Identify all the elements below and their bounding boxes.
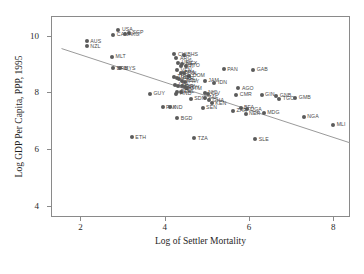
x-axis-tick-mark — [249, 217, 250, 221]
x-axis-tick-label: 4 — [162, 222, 167, 232]
y-axis-title: Log GDP Per Capita, PPP, 1995 — [12, 16, 26, 217]
plot-frame — [51, 16, 350, 217]
x-axis-tick-mark — [165, 217, 166, 221]
x-axis-tick-label: 6 — [247, 222, 252, 232]
x-axis-tick-mark — [80, 217, 81, 221]
y-axis-tick-label: 10 — [30, 31, 39, 41]
x-axis-title: Log of Settler Mortality — [51, 236, 350, 246]
y-axis-tick-label: 6 — [35, 144, 40, 154]
y-axis-tick-label: 8 — [35, 87, 40, 97]
x-axis-tick-label: 2 — [78, 222, 83, 232]
x-axis-tick-label: 8 — [331, 222, 336, 232]
y-axis-tick-label: 4 — [35, 201, 40, 211]
x-axis-tick-mark — [333, 217, 334, 221]
scatter-plot-figure: 46810 AUSNZLUSACANSGPHKGMLTBRBMYSCHLBHSA… — [0, 0, 364, 274]
